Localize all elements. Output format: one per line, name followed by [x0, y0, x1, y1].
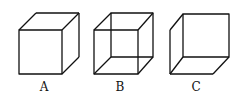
label-a: A — [34, 80, 54, 94]
cube-a — [19, 13, 79, 74]
cube-b — [94, 13, 153, 74]
cube-c — [170, 14, 229, 74]
label-b: B — [110, 80, 130, 94]
label-c: C — [186, 80, 206, 94]
